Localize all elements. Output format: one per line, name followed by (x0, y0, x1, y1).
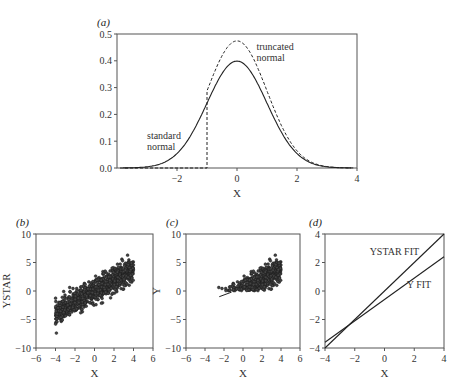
line-annotation: Y FIT (407, 279, 431, 290)
panel-d-fit-lines: −4−2024−4−2024X(d)YSTAR FITY FIT (309, 216, 447, 379)
y-tick-label: 0.4 (100, 55, 113, 66)
x-tick-label: −6 (31, 353, 42, 364)
y-tick-label: −5 (20, 314, 31, 325)
panel-c-y-scatter: −6−4−20246−10−50510XY(c) (150, 216, 303, 379)
x-tick-label: −4 (50, 353, 61, 364)
panel-label: (c) (166, 216, 179, 229)
x-tick-label: 2 (112, 353, 117, 364)
x-tick-label: 4 (131, 353, 136, 364)
panel-label: (d) (309, 216, 322, 229)
line-annotation: YSTAR FIT (370, 246, 419, 257)
y-tick-label: 10 (171, 229, 181, 240)
scatter-points (217, 254, 282, 292)
x-tick-label: 0 (92, 353, 97, 364)
fit-line (219, 292, 231, 297)
x-tick-label: −2 (70, 353, 81, 364)
y-tick-label: −10 (165, 343, 181, 354)
x-tick-label: −2 (219, 353, 230, 364)
x-tick-label: −2 (172, 173, 183, 184)
y-tick-label: −5 (170, 314, 181, 325)
x-tick-label: 2 (295, 173, 300, 184)
x-tick-label: −6 (181, 353, 192, 364)
y-tick-label: −2 (309, 314, 320, 325)
y-tick-label: 0 (176, 286, 181, 297)
x-tick-label: 4 (279, 353, 284, 364)
y-tick-label: 4 (315, 229, 320, 240)
y-tick-label: 2 (315, 257, 320, 268)
x-tick-label: 2 (260, 353, 265, 364)
x-tick-label: 6 (151, 353, 156, 364)
x-tick-label: 4 (355, 173, 360, 184)
y-tick-label: 0.3 (100, 82, 113, 93)
x-tick-label: 0 (382, 353, 387, 364)
y-tick-label: −10 (15, 343, 31, 354)
x-tick-label: 0 (241, 353, 246, 364)
curve-annotation: standardnormal (147, 130, 181, 152)
x-axis-label: X (239, 367, 247, 379)
y-tick-label: 0.5 (100, 29, 113, 40)
y-fit-line (325, 257, 444, 343)
standard-normal-curve (123, 61, 351, 168)
y-tick-label: 0.2 (100, 109, 113, 120)
y-tick-label: 5 (26, 257, 31, 268)
y-tick-label: 0.1 (100, 136, 113, 147)
y-axis-label: YSTAR (0, 273, 12, 309)
curve-annotation: truncatednormal (257, 41, 294, 63)
y-tick-label: 0.0 (100, 163, 113, 174)
x-tick-label: 2 (412, 353, 417, 364)
y-axis-label: Y (150, 287, 162, 295)
x-tick-label: −4 (320, 353, 331, 364)
figure: −20240.00.10.20.30.40.5X(a)standardnorma… (0, 0, 458, 392)
x-tick-label: −2 (349, 353, 360, 364)
panel-a-truncated-normal-density: −20240.00.10.20.30.40.5X(a)standardnorma… (97, 16, 360, 199)
y-tick-label: 0 (26, 286, 31, 297)
panel-label: (b) (16, 216, 29, 229)
x-axis-label: X (233, 187, 241, 199)
panel-b-ystar-scatter: −6−4−20246−10−50510XYSTAR(b) (0, 216, 156, 379)
x-tick-label: 0 (235, 173, 240, 184)
x-tick-label: 6 (298, 353, 303, 364)
y-tick-label: −4 (309, 343, 320, 354)
x-axis-label: X (91, 367, 99, 379)
scatter-points (54, 254, 135, 335)
y-tick-label: 0 (315, 286, 320, 297)
x-tick-label: −4 (200, 353, 211, 364)
panel-label: (a) (97, 16, 110, 29)
x-tick-label: 4 (442, 353, 447, 364)
x-axis-label: X (381, 367, 389, 379)
y-tick-label: 10 (21, 229, 31, 240)
y-tick-label: 5 (176, 257, 181, 268)
